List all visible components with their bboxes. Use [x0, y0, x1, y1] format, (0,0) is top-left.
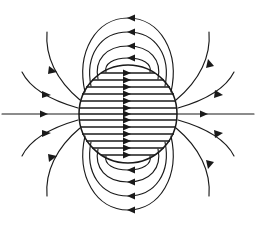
arrow-interior-7: [123, 111, 131, 118]
field-line-right-lower-outer: [176, 128, 209, 196]
arrow-interior-8: [123, 117, 131, 124]
field-line-right-upper-outer: [176, 32, 209, 100]
arrow-interior-10: [123, 131, 131, 138]
field-line-canvas: [0, 0, 256, 225]
arrow-interior-5: [123, 98, 131, 105]
arrow-right-equator: [200, 111, 208, 118]
field-line-left-upper-outer: [47, 32, 80, 100]
arrow-interior-6: [123, 105, 131, 112]
field-line-left-lower-outer: [47, 128, 80, 196]
arrow-upper-loop-3: [127, 43, 135, 50]
exterior-open-lines-right: [176, 32, 254, 196]
arrow-interior-12: [123, 145, 131, 152]
arrow-right-upper-outer: [206, 59, 214, 68]
arrow-right-upper-inner: [214, 90, 223, 98]
arrow-right-lower-outer: [206, 160, 214, 169]
arrow-right-lower-inner: [214, 130, 223, 138]
arrow-upper-loop-4: [127, 55, 135, 62]
arrow-interior-2: [123, 77, 131, 84]
arrow-interior-13: [123, 152, 131, 159]
arrow-lower-loop-3: [127, 179, 135, 186]
arrow-lower-loop-4: [127, 167, 135, 174]
arrow-upper-loop-1: [127, 15, 135, 22]
arrow-interior-4: [123, 91, 131, 98]
arrow-interior-3: [123, 84, 131, 91]
arrow-upper-loop-2: [127, 29, 135, 36]
arrow-lower-loop-2: [127, 193, 135, 200]
arrow-interior-11: [123, 138, 131, 145]
arrow-left-equator: [40, 111, 48, 118]
field-diagram-figure: [0, 0, 256, 225]
arrow-left-lower-outer: [48, 154, 57, 162]
arrow-interior-9: [123, 124, 131, 131]
arrow-interior-1: [123, 70, 131, 77]
arrow-lower-loop-1: [127, 207, 135, 214]
arrow-left-upper-outer: [48, 66, 57, 74]
interior-arrowheads: [123, 70, 131, 159]
